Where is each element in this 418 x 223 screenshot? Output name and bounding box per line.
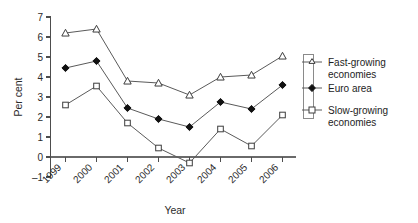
series-euro-area [62,57,286,130]
x-tick-label-2004: 2004 [195,161,219,185]
y-tick-label-6: 6 [37,32,43,43]
legend-label-slow-growing-line2: economies [328,117,376,128]
y-tick-label-0: 0 [37,152,43,163]
open-square-marker [156,145,162,151]
y-tick-label-4: 4 [37,72,43,83]
filled-diamond-marker [124,104,131,111]
legend-label-fast-growing-line2: economies [328,69,376,80]
x-tick-label-2000: 2000 [71,161,95,185]
legend-entry-fast-growing[interactable]: Fast-growing economies [302,57,386,81]
open-square-marker [187,160,193,166]
legend-label-fast-growing-line1: Fast-growing [328,57,386,68]
open-square-marker [63,102,69,108]
filled-diamond-marker [62,64,69,71]
y-tick-label-3: 3 [37,92,43,103]
x-tick-label-2005: 2005 [226,161,250,185]
series-line [66,86,283,163]
x-tick-label-2006: 2006 [257,161,281,185]
y-tick-label-5: 5 [37,52,43,63]
y-tick-label-7: 7 [37,12,43,23]
legend-entry-slow-growing[interactable]: Slow-growing economies [302,105,388,129]
line-chart: 7 6 5 4 3 2 1 0 –1 Per cent 1999 2000 20… [0,0,418,223]
x-tick-label-2001: 2001 [102,161,126,185]
x-axis-ticks [66,157,283,162]
y-tick-label-1: 1 [37,132,43,143]
legend-label-euro-area: Euro area [328,83,372,94]
chart-container: 7 6 5 4 3 2 1 0 –1 Per cent 1999 2000 20… [0,0,418,223]
y-axis-title: Per cent [12,77,24,116]
x-tick-label-2003: 2003 [164,161,188,185]
open-square-marker [94,83,100,89]
open-square-marker [249,143,255,149]
open-square-marker [280,112,286,118]
open-triangle-marker [93,25,100,32]
open-triangle-marker [279,52,286,59]
open-square-marker [125,120,131,126]
y-tick-label-2: 2 [37,112,43,123]
x-tick-label-1999: 1999 [40,161,64,185]
filled-diamond-marker [155,115,162,122]
filled-diamond-marker [93,57,100,64]
y-axis-ticks [46,17,51,177]
series-line [66,61,283,127]
x-axis-title: Year [164,204,186,216]
legend-label-slow-growing-line1: Slow-growing [328,105,388,116]
series-slow-growing-economies [63,83,286,166]
open-square-marker [218,126,224,132]
open-square-icon [309,107,315,113]
legend: Fast-growing economies Euro area Slow-gr… [302,55,388,129]
x-tick-label-2002: 2002 [133,161,157,185]
series-layer [62,25,286,166]
open-triangle-marker [186,91,193,98]
